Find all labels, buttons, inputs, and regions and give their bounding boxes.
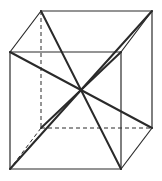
cube-diagram — [0, 0, 162, 181]
edge-back-bottom-right-to-front-bottom-right — [121, 128, 152, 169]
space-diagonals — [10, 11, 152, 169]
edge-back-top-left-to-front-top-left — [10, 11, 41, 52]
diagonal-back-bottom-left-to-front-top-right — [41, 52, 121, 128]
